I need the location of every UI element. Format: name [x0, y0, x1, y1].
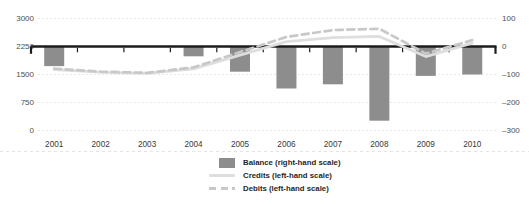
- legend-item-balance: Balance (right-hand scale): [208, 157, 340, 168]
- chart-legend: Balance (right-hand scale) Credits (left…: [208, 157, 340, 194]
- x-axis-label-2004: 2004: [184, 140, 203, 149]
- balance-legend-label: Balance (right-hand scale): [243, 157, 340, 168]
- debits-line-swatch: [209, 187, 235, 190]
- debits-legend-label: Debits (left-hand scale): [243, 183, 329, 194]
- x-axis-label-2005: 2005: [231, 140, 250, 149]
- credits-line-swatch: [209, 174, 235, 177]
- right-axis-label-0: 0: [502, 42, 507, 51]
- legend-item-debits: Debits (left-hand scale): [208, 183, 340, 194]
- chart-figure: 30002250150075001000–100–200–30020012002…: [0, 0, 529, 204]
- x-axis-label-2003: 2003: [138, 140, 157, 149]
- x-axis-label-2009: 2009: [417, 140, 436, 149]
- bar-2010: [462, 47, 482, 75]
- x-axis-label-2001: 2001: [45, 140, 64, 149]
- right-axis-label--300: –300: [502, 126, 520, 135]
- x-axis-label-2006: 2006: [277, 140, 296, 149]
- right-axis-label--200: –200: [502, 98, 520, 107]
- x-axis-label-2007: 2007: [324, 140, 343, 149]
- right-axis-label-100: 100: [502, 14, 516, 23]
- left-axis-label-3000: 3000: [16, 14, 34, 23]
- bar-2001: [44, 47, 64, 66]
- bar-2004: [184, 47, 204, 56]
- bar-2006: [276, 47, 296, 89]
- legend-item-credits: Credits (left-hand scale): [208, 170, 340, 181]
- left-axis-label-0: 0: [30, 126, 35, 135]
- bar-2008: [369, 47, 389, 121]
- legend-separator-line: [0, 151, 529, 152]
- bar-2007: [323, 47, 343, 84]
- credits-legend-label: Credits (left-hand scale): [243, 170, 332, 181]
- x-axis-label-2002: 2002: [92, 140, 111, 149]
- right-axis-label--100: –100: [502, 70, 520, 79]
- left-axis-label-750: 750: [21, 98, 35, 107]
- balance-bar-swatch: [219, 158, 235, 168]
- x-axis-label-2010: 2010: [463, 140, 482, 149]
- x-axis-label-2008: 2008: [370, 140, 389, 149]
- credits-line: [54, 36, 472, 73]
- left-axis-label-1500: 1500: [16, 70, 34, 79]
